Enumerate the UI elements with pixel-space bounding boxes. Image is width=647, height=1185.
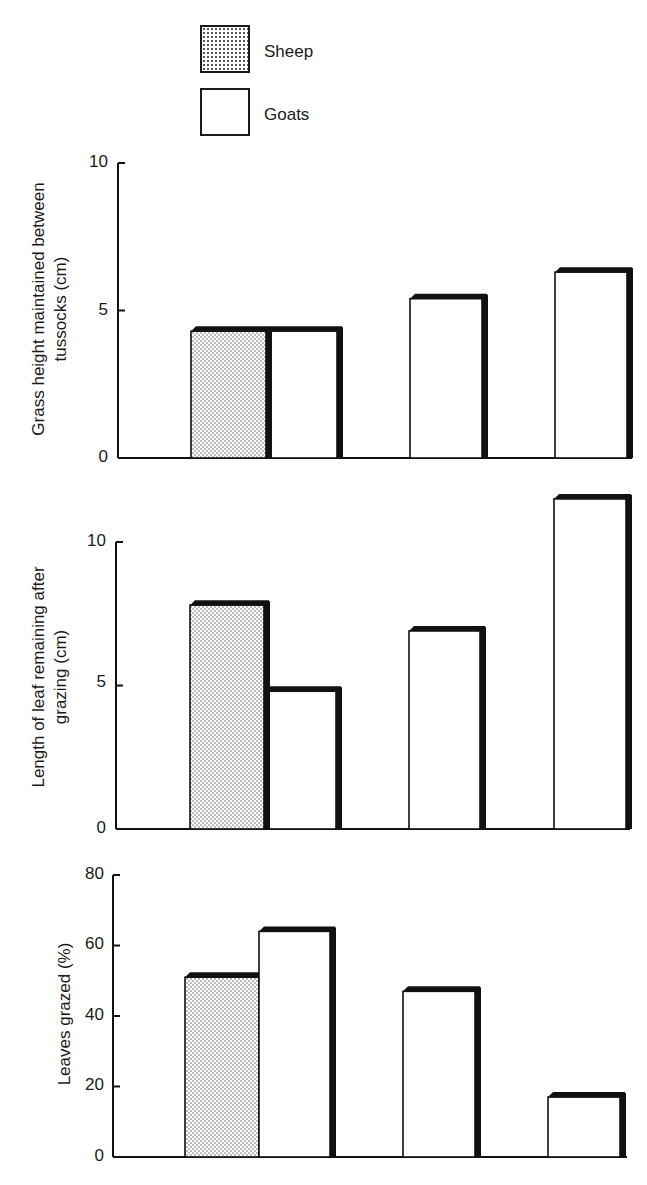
chart2-goats-bar-1-side-face (336, 687, 342, 829)
chart1-sheep-bar-1-front-face (191, 331, 266, 458)
chart2-tick-0: 0 (66, 818, 106, 838)
chart1-tick-5: 5 (68, 300, 108, 320)
legend-label-goats: Goats (264, 105, 309, 125)
chart1-goats-bar-1-front-face (266, 331, 337, 458)
chart3-tick-80: 80 (64, 864, 104, 884)
chart2-y-axis-label-line1: Length of leaf remaining after (28, 517, 50, 837)
legend-swatch-goats (200, 88, 250, 136)
chart3-tick-60: 60 (64, 934, 104, 954)
chart3-goats-bar-1-side-face (330, 927, 336, 1157)
chart2-goats-bar-2-front-face (409, 631, 480, 829)
chart2-goats-bar-3-side-face (626, 495, 632, 829)
chart1-y-axis-label: Grass height maintained between tussocks… (28, 129, 72, 489)
chart2-tick-5: 5 (66, 672, 106, 692)
legend-label-sheep: Sheep (264, 42, 313, 62)
chart1-sheep-bar-1-side-face (266, 327, 272, 458)
chart1-goats-bar-2-front-face (410, 299, 482, 458)
chart2-tick-10: 10 (66, 531, 106, 551)
chart1-y-axis-label-line1: Grass height maintained between (28, 129, 50, 489)
chart3-goats-bar-1-front-face (259, 931, 330, 1157)
chart1-goats-bar-2-side-face (482, 295, 488, 458)
chart3-tick-40: 40 (64, 1005, 104, 1025)
chart2-goats-bar-2-side-face (480, 627, 486, 829)
chart1-tick-0: 0 (68, 447, 108, 467)
chart2-goats-bar-3-front-face (554, 499, 626, 829)
chart3-goats-bar-3-front-face (548, 1097, 620, 1157)
chart1-goats-bar-1-side-face (337, 327, 343, 458)
chart1-goats-bar-3-side-face (627, 268, 633, 458)
chart3-goats-bar-3-side-face (620, 1093, 626, 1157)
legend-swatch-sheep (200, 25, 250, 73)
chart2-sheep-bar-1-side-face (264, 601, 270, 829)
chart3-tick-0: 0 (64, 1146, 104, 1166)
chart3-sheep-bar-1-front-face (185, 977, 259, 1157)
chart1-goats-bar-3-front-face (555, 272, 627, 458)
chart3-goats-bar-2-side-face (475, 987, 481, 1157)
chart1-tick-10: 10 (68, 152, 108, 172)
chart3-tick-20: 20 (64, 1075, 104, 1095)
chart2-goats-bar-1-front-face (264, 691, 336, 829)
chart2-sheep-bar-1-front-face (190, 605, 264, 829)
chart3-goats-bar-2-front-face (403, 991, 475, 1157)
